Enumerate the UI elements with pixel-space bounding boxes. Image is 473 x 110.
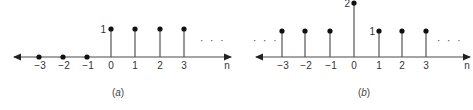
panel-b: 2 1 · · · · · · n −3 −2 −1 0 1 2 3 (b) (253, 0, 470, 98)
caption-a: (a) (112, 87, 124, 98)
tick-label: 2 (157, 60, 163, 71)
value-label-b-2: 2 (344, 0, 350, 9)
sample-a-n-1 (84, 54, 89, 59)
panel-a: 1 · · · n −3 −2 −1 0 1 2 3 (a) (14, 24, 231, 98)
tick-label: −2 (58, 60, 70, 71)
sample-a-n0 (108, 26, 113, 57)
sample-b-n-2 (302, 28, 307, 57)
sample-b-n2 (399, 28, 404, 57)
sample-b-n-3 (279, 28, 284, 57)
tick-label: 1 (376, 60, 382, 71)
tick-label: −2 (300, 60, 312, 71)
tick-label: −1 (82, 60, 94, 71)
sample-a-n-3 (36, 54, 41, 59)
value-label-a-1: 1 (100, 24, 106, 35)
sample-a-n3 (181, 26, 186, 57)
diagram-canvas: 1 · · · n −3 −2 −1 0 1 2 3 (a) (0, 0, 473, 110)
tick-label: −1 (325, 60, 337, 71)
sample-b-n-1 (327, 28, 332, 57)
tick-label: −3 (34, 60, 46, 71)
tick-label: 1 (132, 60, 138, 71)
sample-b-n3 (423, 28, 428, 57)
sample-a-n-2 (60, 54, 65, 59)
axis-label-n-b: n (464, 60, 470, 71)
axis-label-n-a: n (224, 60, 230, 71)
sample-b-n1 (376, 28, 381, 57)
tick-label: 0 (351, 60, 357, 71)
ellipsis-left-b: · · · (253, 35, 279, 46)
caption-b: (b) (358, 87, 370, 98)
sample-a-n1 (132, 26, 137, 57)
sample-a-n2 (157, 26, 162, 57)
tick-label: 2 (399, 60, 405, 71)
sample-b-n0 (351, 0, 356, 57)
tick-label: 3 (423, 60, 429, 71)
tick-label: 0 (108, 60, 114, 71)
stem-plots: 1 · · · n −3 −2 −1 0 1 2 3 (a) (0, 0, 473, 110)
tick-label: 3 (181, 60, 187, 71)
value-label-b-1: 1 (369, 26, 375, 37)
ellipsis-right-a: · · · (200, 35, 226, 46)
tick-label: −3 (277, 60, 289, 71)
ellipsis-right-b: · · · (437, 35, 463, 46)
